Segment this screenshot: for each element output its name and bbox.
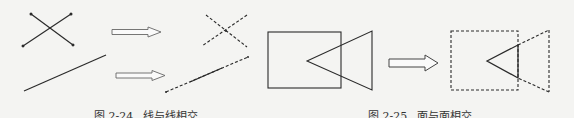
dashed-collinear-line	[165, 56, 249, 93]
fig-2-25-drawing	[268, 30, 549, 92]
arrow-right-icon	[112, 27, 161, 37]
figure-caption: 图 2-24线与线相交	[80, 97, 198, 118]
dashed-triangle	[518, 30, 549, 92]
intersection-triangle	[487, 45, 518, 78]
arrow-right-icon	[389, 55, 438, 71]
solid-crossing-lines	[22, 13, 74, 47]
arrow-right-icon	[116, 71, 165, 81]
solid-rectangle	[268, 32, 341, 88]
dashed-crossing-lines	[202, 15, 247, 47]
figure-number: 图 2-25	[368, 110, 407, 118]
dashed-rectangle	[451, 31, 518, 90]
figure-caption: 图 2-25面与面相交	[354, 97, 472, 118]
figure-title: 面与面相交	[417, 110, 472, 118]
diagram-canvas: 图 2-24线与线相交 图 2-25面与面相交	[0, 0, 574, 118]
figure-title: 线与线相交	[143, 110, 198, 118]
figure-number: 图 2-24	[94, 110, 133, 118]
fig-2-24-drawing	[22, 13, 249, 93]
solid-triangle	[307, 31, 372, 90]
solid-collinear-line	[24, 55, 106, 91]
